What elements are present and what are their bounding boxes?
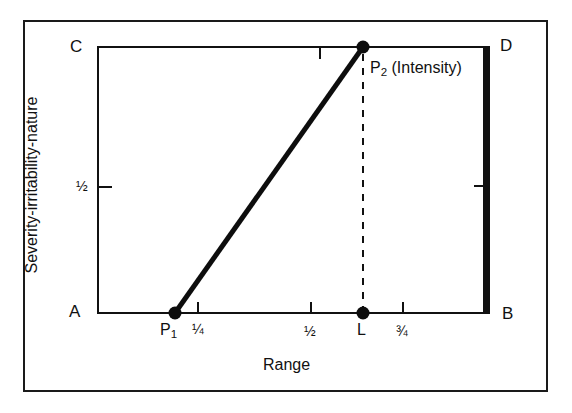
- point-label-p1-sub: 1: [171, 328, 177, 340]
- y-axis-title: Severity-irritability-nature: [24, 0, 42, 78]
- point-label-p1: P1: [160, 322, 177, 340]
- x-axis-title: Range: [263, 357, 310, 373]
- point-label-p1-base: P: [160, 321, 171, 338]
- plot-area: [97, 46, 489, 314]
- data-point-l: [357, 307, 370, 320]
- data-point-p2: [357, 41, 370, 54]
- corner-label-c: C: [70, 38, 82, 55]
- response-line-p1-p2: [175, 47, 363, 313]
- y-tick-label-half: ½: [76, 179, 88, 193]
- line-overlay: [97, 46, 489, 314]
- point-label-l: L: [357, 322, 366, 338]
- figure-page: Severity-irritability-nature C D A B ½ ¼…: [0, 0, 572, 413]
- corner-label-b: B: [502, 305, 513, 322]
- x-tick-label-quarter: ¼: [192, 322, 204, 336]
- x-tick-label-three-quarter: ¾: [396, 324, 408, 338]
- corner-label-d: D: [500, 37, 512, 54]
- data-point-p1: [169, 307, 182, 320]
- y-axis-title-text: Severity-irritability-nature: [24, 78, 40, 292]
- x-tick-label-half: ½: [304, 324, 316, 338]
- corner-label-a: A: [69, 303, 80, 320]
